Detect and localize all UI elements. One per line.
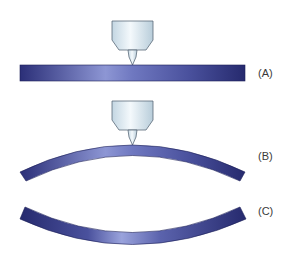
panel-b — [20, 101, 245, 181]
panel-label-b: (B) — [258, 150, 273, 162]
concave-beam — [20, 207, 246, 245]
flat-beam — [20, 65, 245, 81]
indenter-b — [112, 101, 153, 145]
panel-label-a: (A) — [258, 67, 273, 79]
panel-c — [20, 207, 246, 245]
panel-label-c: (C) — [258, 205, 273, 217]
beam-bending-diagram — [0, 0, 289, 253]
panel-a — [20, 20, 245, 81]
indenter-a — [112, 20, 153, 65]
convex-beam — [20, 145, 245, 181]
